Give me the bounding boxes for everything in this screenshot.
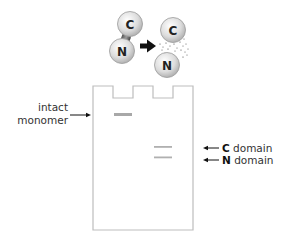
band-c-domain [154,146,172,148]
label-n-letter: N [222,154,231,166]
band-n-domain [154,157,172,159]
intact-n-ball-icon: N [110,39,135,64]
gel-outline [93,86,193,230]
cleaved-n-ball-icon: N [155,53,180,78]
label-c-domain: C domain [222,142,272,154]
band-intact-monomer [114,113,132,116]
label-intact: intact [38,101,68,113]
intact-c-ball-icon: C [118,12,143,37]
cleaved-c-ball-icon: C [161,18,186,43]
label-monomer: monomer [17,114,68,126]
n-domain-pointer-arrow-icon [203,158,219,162]
intact-n-letter: N [117,45,127,59]
cleaved-n-letter: N [162,59,172,73]
cleavage-arrow-icon [140,40,156,53]
intact-pointer-arrow-icon [70,113,91,117]
label-n-rest: domain [231,154,274,166]
cleaved-c-letter: C [169,24,178,38]
c-domain-pointer-arrow-icon [203,146,219,150]
intact-c-letter: C [126,18,135,32]
intact-molecule: C N [110,12,143,64]
label-n-domain: N domain [222,154,273,166]
diagram-canvas: C N C N intact monomer [0,0,284,241]
label-c-rest: domain [230,142,273,154]
